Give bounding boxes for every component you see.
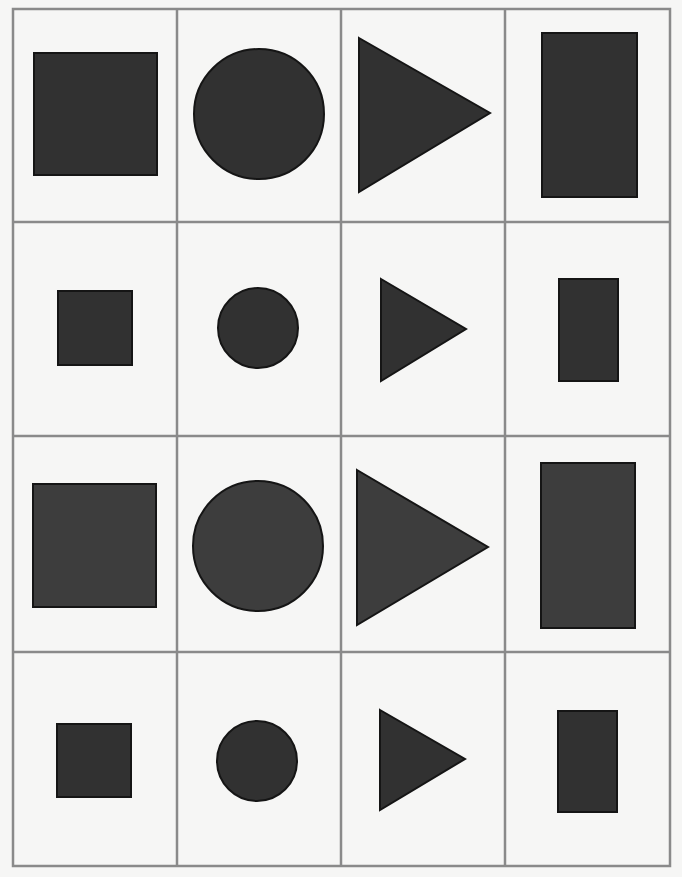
small-square-shape — [57, 724, 131, 797]
small-triangle-shape — [380, 710, 465, 810]
small-circle-shape — [217, 721, 297, 801]
small-circle-shape — [218, 288, 298, 368]
large-circle-shape — [194, 49, 324, 179]
large-rectangle-shape — [542, 33, 637, 197]
shape-grid-canvas — [0, 0, 682, 877]
small-square-shape — [58, 291, 132, 365]
large-triangle-shape — [357, 470, 488, 625]
small-rectangle-shape — [559, 279, 618, 381]
large-circle-shape — [193, 481, 323, 611]
small-triangle-shape — [381, 279, 466, 381]
large-square-shape — [34, 53, 157, 175]
shape-grid-figure — [0, 0, 682, 877]
large-square-shape — [33, 484, 156, 607]
large-rectangle-shape — [541, 463, 635, 628]
shapes — [33, 33, 637, 812]
large-triangle-shape — [359, 38, 490, 192]
small-rectangle-shape — [558, 711, 617, 812]
